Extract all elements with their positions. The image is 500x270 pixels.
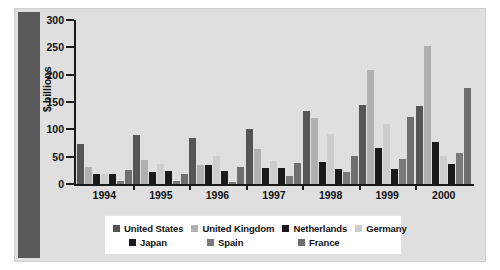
x-axis-tick-label: 1997	[246, 189, 303, 201]
legend-swatch-icon	[355, 225, 362, 232]
bar	[181, 174, 188, 184]
bar	[85, 167, 92, 184]
legend-item[interactable]: Netherlands	[282, 223, 355, 234]
legend-item[interactable]: France	[298, 237, 348, 248]
bar	[205, 165, 212, 184]
x-axis-tick-label: 1999	[359, 189, 416, 201]
y-axis-tick-label: 300	[30, 15, 64, 25]
legend-label: Netherlands	[293, 223, 347, 234]
legend-item[interactable]: United Kingdom	[191, 223, 282, 234]
legend-item[interactable]: Japan	[129, 237, 175, 248]
bar	[77, 144, 84, 184]
bar-group	[302, 20, 359, 184]
bar	[237, 167, 244, 184]
bar	[294, 163, 301, 184]
bar	[149, 172, 156, 184]
legend-item[interactable]: Germany	[355, 223, 415, 234]
bar	[229, 182, 236, 184]
bar	[125, 170, 132, 184]
bar	[367, 70, 374, 184]
y-axis-tick-label: 100	[30, 124, 64, 134]
legend-swatch-icon	[113, 225, 120, 232]
y-axis-tick-label: 200	[30, 70, 64, 80]
x-axis-labels: 1994199519961997199819992000	[76, 189, 472, 201]
y-axis-tick	[66, 128, 74, 130]
bar	[327, 134, 334, 184]
y-axis-tick	[66, 156, 74, 158]
x-axis-tick-label: 1995	[133, 189, 190, 201]
y-axis-tick-label: 250	[30, 42, 64, 52]
y-axis-tick	[66, 46, 74, 48]
bar	[391, 169, 398, 184]
legend-swatch-icon	[129, 239, 136, 246]
legend-row-1: United StatesUnited KingdomNetherlandsGe…	[113, 221, 395, 235]
bar-group	[246, 20, 303, 184]
bar-groups	[76, 20, 472, 184]
bar	[424, 46, 431, 184]
y-axis-tick	[66, 183, 74, 185]
bar	[335, 169, 342, 184]
bar	[262, 168, 269, 184]
bar	[416, 106, 423, 184]
bar	[456, 153, 463, 184]
legend-label: Germany	[366, 223, 407, 234]
x-axis-tick-label: 1996	[189, 189, 246, 201]
bar	[109, 174, 116, 184]
legend-row-2: JapanSpainFrance	[113, 235, 395, 249]
y-axis-tick-label: 0	[30, 179, 64, 189]
bar	[375, 148, 382, 184]
x-axis-tick-label: 1998	[302, 189, 359, 201]
legend-label: United States	[124, 223, 183, 234]
legend-item[interactable]: Spain	[207, 237, 251, 248]
bar	[133, 135, 140, 184]
bar	[464, 88, 471, 184]
y-axis-tick	[66, 19, 74, 21]
legend-swatch-icon	[298, 239, 305, 246]
bar	[383, 124, 390, 184]
bar-group	[189, 20, 246, 184]
chart-legend: United StatesUnited KingdomNetherlandsGe…	[104, 215, 402, 255]
bar-group	[76, 20, 133, 184]
bar	[157, 164, 164, 184]
bar-group	[133, 20, 190, 184]
bar	[432, 142, 439, 184]
legend-label: Japan	[140, 237, 167, 248]
bar	[270, 161, 277, 185]
legend-item[interactable]: United States	[113, 223, 191, 234]
bar	[221, 171, 228, 184]
bar	[254, 149, 261, 184]
legend-swatch-icon	[207, 239, 214, 246]
chart-figure: $ billions 050100150200250300 1994199519…	[0, 0, 500, 270]
bar-group	[359, 20, 416, 184]
bar	[197, 165, 204, 184]
bar	[189, 138, 196, 184]
bar	[286, 176, 293, 184]
y-axis-tick-label: 150	[30, 97, 64, 107]
bar	[343, 172, 350, 184]
bar	[448, 164, 455, 184]
bar	[407, 117, 414, 184]
bar	[93, 174, 100, 184]
bar-group	[415, 20, 472, 184]
y-axis-tick-label: 50	[30, 152, 64, 162]
bar	[399, 159, 406, 184]
legend-swatch-icon	[191, 225, 198, 232]
bar	[351, 156, 358, 184]
bar	[278, 168, 285, 184]
bar	[165, 171, 172, 184]
bar	[311, 118, 318, 184]
bar	[440, 156, 447, 184]
x-axis-tick-label: 1994	[76, 189, 133, 201]
legend-label: France	[309, 237, 340, 248]
bar	[101, 174, 108, 184]
legend-swatch-icon	[282, 225, 289, 232]
bar	[303, 111, 310, 184]
bar	[213, 156, 220, 184]
y-axis-tick	[66, 101, 74, 103]
bar	[319, 162, 326, 184]
bar	[141, 160, 148, 184]
legend-label: United Kingdom	[202, 223, 274, 234]
bar	[359, 105, 366, 184]
legend-label: Spain	[218, 237, 243, 248]
bar	[117, 181, 124, 184]
